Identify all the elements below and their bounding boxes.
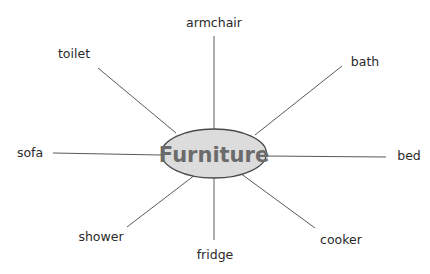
branch-label-sofa: sofa [17,145,43,160]
spoke-line-sofa [53,153,161,155]
branch-label-shower: shower [78,229,124,244]
branch-label-fridge: fridge [197,247,234,262]
furniture-word-map: Furniture armchairtoiletbathsofabedshowe… [0,0,430,274]
branch-label-toilet: toilet [58,46,90,61]
branch-label-bed: bed [397,148,421,163]
branch-label-bath: bath [351,54,379,69]
spoke-line-bath [255,66,342,135]
spoke-line-shower [127,175,195,227]
branch-label-armchair: armchair [186,15,243,30]
center-node-label: Furniture [159,143,269,167]
spoke-line-toilet [98,68,176,133]
spoke-line-cooker [240,173,315,228]
branch-label-cooker: cooker [320,232,363,247]
spoke-line-bed [266,156,386,157]
